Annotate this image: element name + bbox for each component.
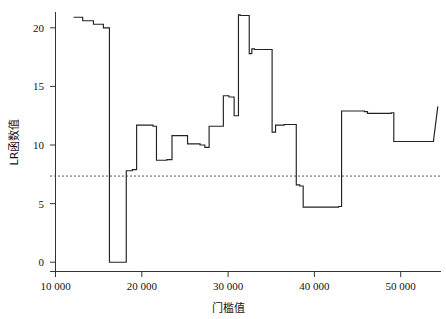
y-tick-label-20: 20 xyxy=(33,22,45,34)
lr-statistic-line-chart: 0 5 10 15 20 10 000 20 000 30 000 40 000… xyxy=(0,0,446,319)
y-axis-title: LR函数值 xyxy=(8,119,21,166)
y-axis-ticks xyxy=(50,28,56,262)
x-axis-ticks xyxy=(56,272,401,278)
y-tick-label-15: 15 xyxy=(33,80,45,92)
y-tick-label-10: 10 xyxy=(33,139,45,151)
lr-series-line xyxy=(74,15,438,262)
x-tick-label-10000: 10 000 xyxy=(40,280,71,292)
x-tick-label-20000: 20 000 xyxy=(127,280,158,292)
y-tick-label-0: 0 xyxy=(39,256,45,268)
x-tick-label-40000: 40 000 xyxy=(299,280,330,292)
x-tick-label-30000: 30 000 xyxy=(213,280,244,292)
x-tick-label-50000: 50 000 xyxy=(386,280,417,292)
chart-container: 0 5 10 15 20 10 000 20 000 30 000 40 000… xyxy=(0,0,446,319)
x-axis-title: 门槛值 xyxy=(212,301,245,315)
y-tick-label-5: 5 xyxy=(39,198,45,210)
